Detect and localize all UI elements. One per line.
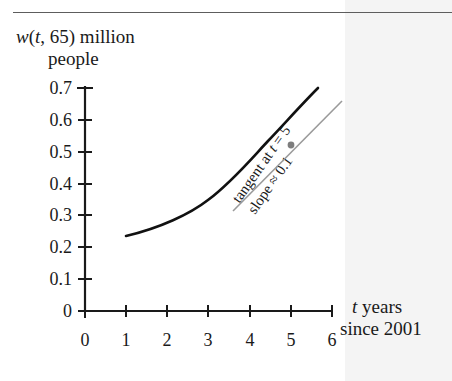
- growth-curve: [126, 88, 318, 236]
- tangent-point-marker: [288, 142, 295, 149]
- y-tick-label-0.2: 0.2: [28, 237, 72, 258]
- x-tick-label-1: 1: [116, 330, 136, 351]
- x-tick-label-2: 2: [157, 330, 177, 351]
- y-tick-label-0: 0: [28, 301, 72, 322]
- x-tick-label-5: 5: [281, 330, 301, 351]
- y-tick-label-0.6: 0.6: [28, 110, 72, 131]
- x-tick-label-6: 6: [322, 330, 342, 351]
- y-tick-label-0.3: 0.3: [28, 205, 72, 226]
- x-tick-label-0: 0: [75, 330, 95, 351]
- x-tick-label-4: 4: [240, 330, 260, 351]
- y-tick-label-0.1: 0.1: [28, 269, 72, 290]
- x-tick-label-3: 3: [198, 330, 218, 351]
- tangent-line: [233, 101, 342, 211]
- y-tick-label-0.7: 0.7: [28, 78, 72, 99]
- y-tick-label-0.4: 0.4: [28, 174, 72, 195]
- figure-container: w(t, 65) million people t years since 20…: [0, 0, 452, 381]
- y-tick-label-0.5: 0.5: [28, 142, 72, 163]
